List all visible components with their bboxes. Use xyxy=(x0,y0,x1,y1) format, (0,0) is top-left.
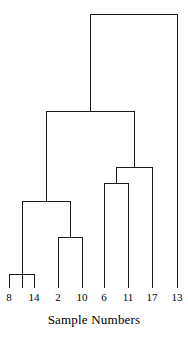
leaf-label-17: 17 xyxy=(147,292,158,303)
dendrogram-plot xyxy=(0,0,188,300)
leaf-label-13: 13 xyxy=(172,292,183,303)
leaf-label-8: 8 xyxy=(6,292,12,303)
leaf-label-6: 6 xyxy=(101,292,107,303)
leaf-label-14: 14 xyxy=(29,292,40,303)
leaf-label-10: 10 xyxy=(77,292,88,303)
dendrogram-link-group xyxy=(9,14,177,288)
leaf-label-2: 2 xyxy=(55,292,61,303)
leaf-label-11: 11 xyxy=(123,292,134,303)
dendrogram-figure: 8 14 2 10 6 11 17 13 Sample Numbers xyxy=(0,0,188,339)
x-axis-title: Sample Numbers xyxy=(0,312,188,327)
